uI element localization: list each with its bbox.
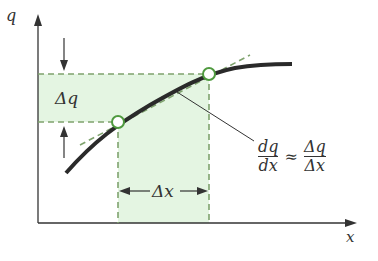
y-axis-arrow-icon: [34, 14, 42, 26]
delta-q-label: Δq: [55, 88, 78, 108]
point-end-icon: [203, 68, 215, 80]
x-axis-arrow-icon: [345, 219, 357, 227]
formula-rhs-numerator: Δq: [304, 138, 326, 156]
formula-approx: ≈: [284, 147, 297, 166]
x-axis-label: x: [346, 228, 354, 246]
down-arrow-icon: [60, 60, 68, 71]
formula-lhs-numerator: dq: [258, 138, 278, 156]
derivative-formula: dq dx ≈ Δq Δx: [258, 138, 326, 175]
diagram-graphics: [0, 0, 378, 261]
delta-x-label: Δx: [152, 181, 174, 201]
formula-rhs-denominator: Δx: [305, 157, 326, 175]
point-start-icon: [112, 116, 124, 128]
derivative-diagram: q x Δq Δx dq dx ≈ Δq Δx: [0, 0, 378, 261]
formula-lhs-denominator: dx: [259, 157, 278, 175]
up-arrow-icon: [60, 126, 68, 137]
y-axis-label: q: [6, 6, 16, 25]
delta-x-fill: [118, 122, 209, 223]
